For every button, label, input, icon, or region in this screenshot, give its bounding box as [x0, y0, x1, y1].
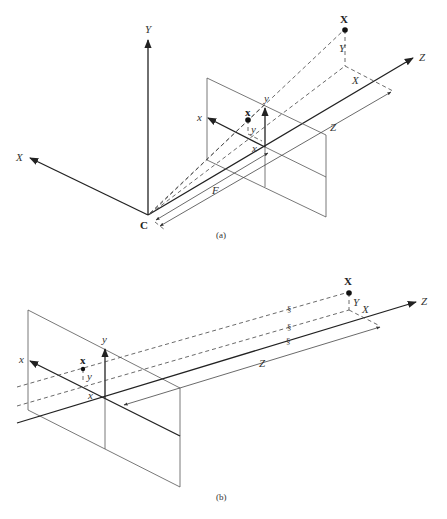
label-depth-z: Z	[330, 121, 337, 133]
label-point-3d-X-b: X	[361, 303, 370, 315]
label-image-point-y-b: y	[86, 370, 92, 382]
label-image-x-axis: x	[196, 111, 202, 123]
label-point-3d-X: X	[351, 74, 360, 86]
ray-parallel-lower	[17, 310, 349, 406]
projection-diagram: Y X Z C X Y X x x y y x Z F (a)	[0, 0, 447, 519]
world-z-axis	[148, 58, 413, 215]
label-point-3d-Y-b: Y	[353, 296, 361, 308]
label-point-3d-Y: Y	[339, 42, 347, 54]
caption-a: (a)	[216, 230, 226, 240]
label-world-x: X	[15, 151, 24, 163]
label-world-y: Y	[145, 23, 153, 35]
depth-dimension-a	[160, 92, 391, 226]
label-center-c: C	[140, 219, 148, 231]
label-image-point: x	[245, 106, 251, 118]
label-focal-f: F	[211, 184, 219, 196]
label-image-point-b: x	[80, 354, 86, 366]
break-mark-1: §	[287, 304, 292, 314]
plane-mid-line	[265, 147, 326, 177]
world-x-axis	[30, 158, 148, 215]
label-point-3d-b: X	[344, 275, 352, 287]
break-mark-2: §	[287, 322, 292, 332]
image-point-marker-b	[81, 367, 85, 371]
label-depth-z-b: Z	[259, 357, 266, 369]
label-world-z: Z	[419, 51, 426, 63]
point-3d-marker-a	[342, 27, 348, 33]
label-image-point-x-b: x	[87, 389, 93, 401]
label-image-point-y: y	[250, 123, 256, 135]
panel-b-orthographic: § § § X Y X Z x x y y x Z (b)	[17, 275, 428, 502]
label-image-y-axis-b: y	[101, 333, 107, 345]
world-z-axis-b	[17, 302, 416, 423]
caption-b: (b)	[216, 492, 227, 502]
break-mark-3: §	[286, 336, 291, 346]
label-image-y-axis: y	[263, 92, 269, 104]
ray-to-point-base	[150, 66, 345, 214]
depth-dimension-b	[124, 327, 380, 405]
image-point-marker-a	[245, 117, 251, 123]
label-image-point-x: x	[251, 142, 257, 154]
point-3d-marker-b	[346, 290, 352, 296]
label-world-z-b: Z	[421, 295, 428, 307]
label-point-3d: X	[340, 13, 348, 25]
label-image-x-axis-b: x	[18, 353, 24, 365]
panel-a-perspective: Y X Z C X Y X x x y y x Z F (a)	[15, 13, 426, 240]
